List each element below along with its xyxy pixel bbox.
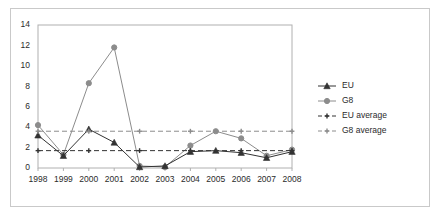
svg-text:2000: 2000: [79, 174, 98, 184]
y-tick: 12: [21, 40, 31, 50]
svg-text:1998: 1998: [29, 174, 48, 184]
svg-text:10: 10: [21, 60, 31, 70]
chart-screenshot: 0246810121419981999200020012002200320042…: [0, 0, 440, 215]
x-tick: 2002: [130, 168, 149, 184]
svg-text:12: 12: [21, 40, 31, 50]
x-tick: 2000: [79, 168, 98, 184]
svg-text:0: 0: [25, 162, 30, 172]
svg-text:2005: 2005: [206, 174, 225, 184]
y-tick: 4: [25, 121, 30, 131]
legend-item-eu-average: EU average: [318, 110, 387, 120]
svg-text:1999: 1999: [54, 174, 73, 184]
svg-text:6: 6: [25, 101, 30, 111]
legend-item-eu: EU: [318, 80, 354, 90]
y-tick: 0: [25, 162, 30, 172]
svg-text:2002: 2002: [130, 174, 149, 184]
data-point: [35, 123, 40, 128]
x-tick: 2004: [181, 168, 200, 184]
svg-text:2006: 2006: [232, 174, 251, 184]
svg-text:2003: 2003: [156, 174, 175, 184]
x-tick: 2008: [283, 168, 302, 184]
svg-text:EU average: EU average: [342, 110, 387, 120]
data-point: [188, 143, 193, 148]
svg-text:8: 8: [25, 81, 30, 91]
svg-text:2008: 2008: [283, 174, 302, 184]
legend-item-g8: G8: [318, 95, 354, 105]
legend-item-g8-average: G8 average: [318, 125, 387, 135]
svg-text:4: 4: [25, 121, 30, 131]
x-tick: 1998: [29, 168, 48, 184]
svg-text:2: 2: [25, 142, 30, 152]
svg-text:2007: 2007: [257, 174, 276, 184]
x-tick: 2005: [206, 168, 225, 184]
line-chart: 0246810121419981999200020012002200320042…: [0, 0, 440, 215]
x-tick: 2003: [156, 168, 175, 184]
data-point: [112, 45, 117, 50]
x-tick: 2007: [257, 168, 276, 184]
svg-text:EU: EU: [342, 80, 354, 90]
y-tick: 14: [21, 19, 31, 29]
y-tick: 10: [21, 60, 31, 70]
svg-text:14: 14: [21, 19, 31, 29]
legend: EUG8EU averageG8 average: [318, 80, 387, 135]
data-point: [324, 98, 329, 103]
data-point: [239, 136, 244, 141]
data-point: [86, 81, 91, 86]
svg-text:G8: G8: [342, 95, 354, 105]
svg-text:2004: 2004: [181, 174, 200, 184]
svg-text:G8 average: G8 average: [342, 125, 387, 135]
y-tick: 8: [25, 81, 30, 91]
svg-text:2001: 2001: [105, 174, 124, 184]
y-tick: 2: [25, 142, 30, 152]
y-tick: 6: [25, 101, 30, 111]
x-tick: 1999: [54, 168, 73, 184]
x-tick: 2006: [232, 168, 251, 184]
x-tick: 2001: [105, 168, 124, 184]
